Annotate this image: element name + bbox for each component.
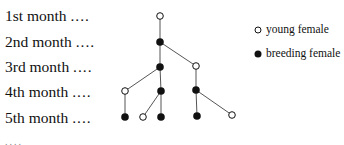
tree-edge: [196, 90, 197, 116]
young-female-node: [229, 112, 236, 119]
breeding-female-node: [192, 86, 200, 94]
open-circle-icon: [254, 26, 262, 34]
young-female-node: [140, 114, 147, 121]
young-female-node: [122, 88, 129, 95]
tree-nodes: [121, 13, 235, 121]
tree-edge: [196, 90, 232, 115]
breeding-female-node: [121, 113, 129, 121]
young-female-node: [193, 63, 200, 70]
legend-label: breeding female: [266, 47, 340, 59]
breeding-female-node: [157, 87, 165, 95]
tree-edges: [125, 16, 232, 117]
filled-circle-icon: [254, 50, 262, 58]
tree-edge: [160, 42, 196, 66]
breeding-female-node: [193, 112, 201, 120]
tree-edge: [125, 67, 160, 91]
legend-young-female: young female: [254, 22, 329, 36]
young-female-node: [157, 13, 164, 20]
legend-label: young female: [266, 23, 329, 35]
breeding-female-node: [156, 38, 164, 46]
breeding-female-node: [157, 113, 165, 121]
tree-edge: [143, 91, 161, 117]
legend-breeding-female: breeding female: [254, 46, 340, 60]
breeding-female-node: [156, 63, 164, 71]
